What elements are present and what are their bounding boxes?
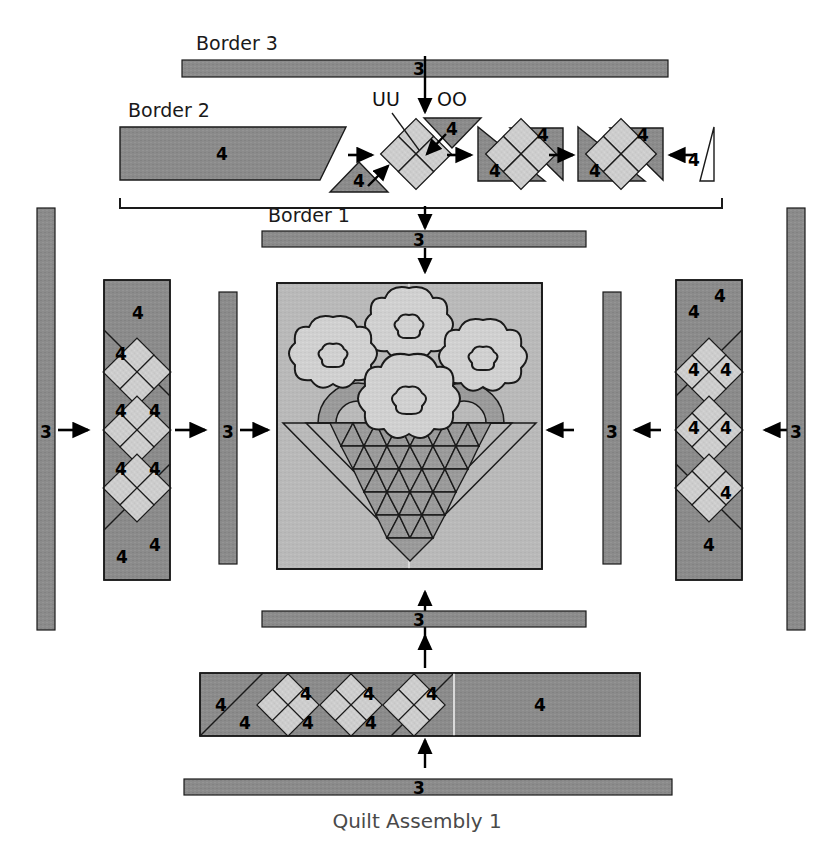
right-outer-strip[interactable] [787,208,805,630]
border2-left-parallelogram[interactable] [120,127,346,180]
border-3-label: Border 3 [196,32,278,54]
border2-bottom-triangle-code: 4 [353,171,365,191]
right-inner-strip-code: 3 [606,422,618,442]
flower-top-center [365,287,453,359]
left-outer-strip-code: 3 [40,422,52,442]
left-diamond-label-0: 4 [115,344,127,364]
left-pieced-bottom-code: 4 [116,547,128,567]
bottom-pieced-left-code: 4 [215,695,227,715]
right-diamond-label-0: 4 [688,302,700,322]
left-diamond-label-3: 4 [115,459,127,479]
left-diamond-label-1: 4 [115,401,127,421]
left-pieced-top-code: 4 [132,303,144,323]
bottom-diamond-label-2: 4 [302,713,314,733]
bottom-inner-strip-code: 3 [413,610,425,630]
left-inner-strip-code: 3 [222,422,234,442]
border2-unit-b-triangle-code: 4 [589,161,601,181]
border2-unit-b-corner-code: 4 [637,125,649,145]
border2-unit-a-triangle-code: 4 [489,161,501,181]
border2-unit-a-corner-code: 4 [537,125,549,145]
figure-caption: Quilt Assembly 1 [332,809,501,833]
right-outer-strip-code: 3 [790,422,802,442]
right-diamond-label-4: 4 [720,418,732,438]
bottom-diamond-label-0: 4 [239,713,251,733]
border-1-label: Border 1 [268,204,350,226]
right-pieced-bottom-code: 4 [703,535,715,555]
right-diamond-label-1: 4 [688,360,700,380]
left-diamond-label-5: 4 [149,535,161,555]
bottom-diamond-label-3: 4 [363,684,375,704]
quilt-assembly-diagram: Border 3 3 Border 2 4 4 UU 4 OO [0,0,834,856]
right-diamond-label-5: 4 [720,483,732,503]
bottom-diamond-label-4: 4 [365,713,377,733]
border-1-strip-code: 3 [413,230,425,250]
center-block[interactable] [277,283,542,569]
right-diamond-label-3: 4 [688,418,700,438]
uu-label: UU [372,88,400,110]
oo-triangle-code: 4 [446,119,458,139]
bottom-diamond-label-1: 4 [300,684,312,704]
bottom-diamond-label-5: 4 [426,684,438,704]
bottom-outer-strip-code: 3 [413,778,425,798]
border2-right-triangle-code: 4 [688,150,700,170]
bottom-outer-strip[interactable] [184,779,672,795]
flower-left [289,316,377,388]
oo-label: OO [437,88,467,110]
bottom-pieced-border[interactable] [200,673,640,736]
right-diamond-label-2: 4 [720,360,732,380]
diagram-canvas: Border 3 3 Border 2 4 4 UU 4 OO [0,0,834,856]
border-3-strip-code: 3 [413,59,425,79]
right-pieced-top-code: 4 [714,286,726,306]
border2-left-parallelogram-code: 4 [216,144,228,164]
border-2-label: Border 2 [128,99,210,121]
left-diamond-label-2: 4 [149,401,161,421]
bottom-pieced-right-code: 4 [534,695,546,715]
left-diamond-label-4: 4 [149,459,161,479]
left-outer-strip[interactable] [37,208,55,630]
flower-bottom-center [358,354,460,438]
